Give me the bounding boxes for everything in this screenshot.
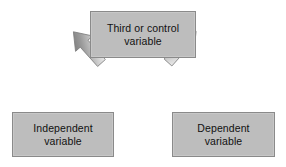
node-independent-variable[interactable]: Independent variable	[12, 112, 114, 157]
node-label: Dependent variable	[194, 122, 252, 147]
node-dependent-variable[interactable]: Dependent variable	[172, 112, 275, 157]
diagram-canvas: Third or control variable Independent va…	[0, 0, 286, 167]
node-label: Third or control variable	[104, 22, 182, 47]
node-label: Independent variable	[30, 122, 96, 147]
node-third-or-control-variable[interactable]: Third or control variable	[90, 11, 196, 58]
